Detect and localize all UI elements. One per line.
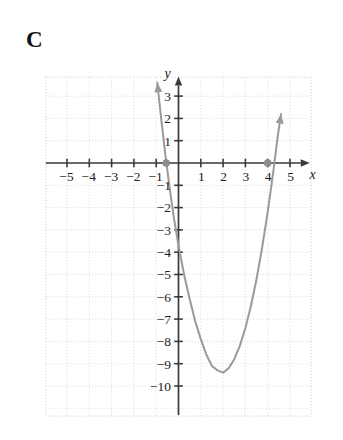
tick-label: 1 [198,169,205,184]
coordinate-plane: −5−4−3−2−112345321−1−2−3−4−5−6−7−8−9−10 … [0,0,343,440]
tick-label: −8 [157,334,172,349]
tick-labels: −5−4−3−2−112345321−1−2−3−4−5−6−7−8−9−10 [59,89,294,394]
tick-label: 5 [287,169,294,184]
parabola-curve [154,83,283,373]
tick-label: −9 [157,357,172,372]
panel-label: C [26,28,43,51]
tick-label: 2 [164,111,171,126]
tick-label: 3 [243,169,250,184]
tick-label: −7 [157,312,172,327]
tick-label: −1 [157,178,171,193]
tick-label: 1 [164,134,171,149]
tick-label: −3 [157,223,172,238]
tick-label: −2 [157,200,171,215]
tick-label: 3 [164,89,171,104]
tick-label: −4 [82,169,97,184]
tick-label: −3 [104,169,119,184]
tick-label: −6 [157,290,172,305]
figure-panel: C −5−4−3−2−112345321−1−2−3−4−5−6−7−8−9−1… [0,0,343,440]
tick-label: −10 [150,379,171,394]
tick-label: −5 [59,169,74,184]
tick-label: 4 [265,169,272,184]
tick-label: −2 [126,169,140,184]
x-axis-label: x [309,167,317,182]
tick-label: −4 [157,245,172,260]
tick-label: 2 [220,169,227,184]
y-axis-label: y [162,66,171,81]
tick-label: −5 [157,267,172,282]
